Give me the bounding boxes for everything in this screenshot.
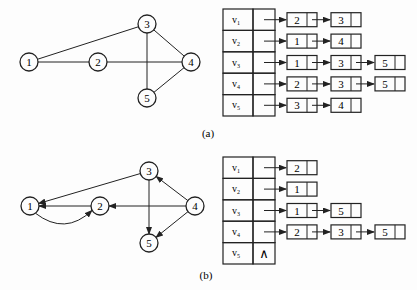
- svg-text:v5: v5: [232, 99, 240, 111]
- list-node: [375, 77, 405, 91]
- adjacency-list-b: v12v21v315v4235v5∧: [223, 157, 405, 264]
- node-3: 3: [138, 15, 156, 33]
- svg-text:3: 3: [338, 78, 344, 90]
- svg-text:2: 2: [97, 200, 103, 212]
- adjacency-row: v21: [223, 178, 317, 199]
- adjacency-row: v214: [223, 30, 361, 51]
- svg-text:v1: v1: [232, 14, 240, 26]
- svg-text:3: 3: [338, 14, 344, 26]
- svg-text:5: 5: [338, 205, 344, 217]
- edge-4-5: [156, 212, 188, 238]
- adjacency-row: v3135: [223, 52, 405, 73]
- null-pointer-icon: ∧: [259, 246, 269, 261]
- list-node: [287, 161, 317, 175]
- svg-text:2: 2: [95, 56, 101, 68]
- edge-4-3: [156, 176, 188, 200]
- node-1: 1: [20, 53, 38, 71]
- svg-text:v2: v2: [232, 35, 240, 47]
- node-4: 4: [182, 53, 200, 71]
- svg-text:1: 1: [294, 35, 300, 47]
- svg-text:4: 4: [192, 200, 198, 212]
- adjacency-row: v4235: [223, 221, 405, 242]
- caption-b: (b): [200, 269, 213, 282]
- edge-1-2: [35, 211, 92, 224]
- list-node: [375, 56, 405, 70]
- adjacency-row: v315: [223, 200, 361, 221]
- svg-text:1: 1: [294, 205, 300, 217]
- edge-1-3: [38, 27, 139, 59]
- svg-text:3: 3: [338, 226, 344, 238]
- edge-4-5: [154, 68, 184, 93]
- node-3: 3: [140, 162, 158, 180]
- node-5: 5: [138, 89, 156, 107]
- svg-text:3: 3: [294, 99, 300, 111]
- svg-text:4: 4: [188, 56, 194, 68]
- adjacency-row: v4235: [223, 73, 405, 94]
- svg-text:5: 5: [146, 237, 152, 249]
- svg-text:2: 2: [294, 162, 300, 174]
- undirected-graph-a: 12345: [20, 15, 200, 107]
- svg-text:v5: v5: [232, 247, 240, 259]
- list-node: [375, 225, 405, 239]
- svg-text:v2: v2: [232, 183, 240, 195]
- list-node: [331, 13, 361, 27]
- svg-text:2: 2: [294, 78, 300, 90]
- svg-text:5: 5: [382, 78, 388, 90]
- node-5: 5: [140, 234, 158, 252]
- edge-3-4: [154, 30, 184, 56]
- node-4: 4: [186, 197, 204, 215]
- graph-adjacency-figure: 12345 v123v214v3135v4235v534 (a) 12345 v…: [0, 0, 417, 290]
- svg-text:2: 2: [294, 14, 300, 26]
- adjacency-row: v534: [223, 95, 361, 116]
- adjacency-row: v123: [223, 9, 361, 30]
- caption-a: (a): [202, 127, 215, 140]
- svg-text:2: 2: [294, 226, 300, 238]
- adjacency-row: v12: [223, 157, 317, 178]
- svg-text:v4: v4: [232, 226, 240, 238]
- list-node: [287, 182, 317, 196]
- svg-text:5: 5: [144, 92, 150, 104]
- adjacency-list-a: v123v214v3135v4235v534: [223, 9, 405, 116]
- svg-text:1: 1: [26, 56, 32, 68]
- list-node: [331, 34, 361, 48]
- svg-text:v1: v1: [232, 162, 240, 174]
- adjacency-row: v5∧: [223, 243, 275, 264]
- svg-text:4: 4: [338, 99, 344, 111]
- svg-text:5: 5: [382, 57, 388, 69]
- node-1: 1: [21, 197, 39, 215]
- svg-text:1: 1: [27, 200, 33, 212]
- svg-text:3: 3: [338, 57, 344, 69]
- svg-text:v3: v3: [232, 205, 240, 217]
- svg-text:5: 5: [382, 226, 388, 238]
- list-node: [331, 98, 361, 112]
- edge-3-1: [39, 174, 141, 204]
- list-node: [331, 204, 361, 218]
- directed-graph-b: 12345: [21, 162, 204, 252]
- svg-text:3: 3: [144, 18, 150, 30]
- svg-text:v4: v4: [232, 78, 240, 90]
- svg-text:1: 1: [294, 57, 300, 69]
- svg-text:1: 1: [294, 183, 300, 195]
- node-2: 2: [91, 197, 109, 215]
- svg-text:4: 4: [338, 35, 344, 47]
- node-2: 2: [89, 53, 107, 71]
- svg-text:3: 3: [146, 165, 152, 177]
- svg-text:v3: v3: [232, 57, 240, 69]
